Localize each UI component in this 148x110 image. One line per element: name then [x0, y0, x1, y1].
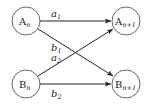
edge-label-b2: b2: [51, 88, 62, 101]
node-b-n-plus-1: Bn+1: [112, 70, 140, 98]
node-a-n: An: [12, 7, 40, 35]
node-a-n-plus-1: An+1: [112, 7, 140, 35]
node-b-n: Bn: [12, 70, 40, 98]
transition-diagram: An An+1 Bn Bn+1 a1 b1 a2 b2: [0, 0, 148, 110]
edge-label-a1: a1: [51, 8, 61, 21]
